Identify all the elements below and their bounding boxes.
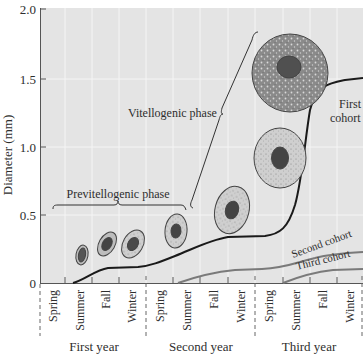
- previtellogenic-label: Previtellogenic phase: [67, 187, 170, 201]
- season-y2-winter: Winter: [234, 290, 248, 323]
- year-label-third: Third year: [282, 339, 337, 354]
- season-y3-spring: Spring: [262, 290, 276, 322]
- year-dividers: [40, 276, 362, 336]
- first-cohort-label-2: cohort: [330, 111, 361, 125]
- season-y1-spring: Spring: [46, 290, 60, 322]
- season-y1-winter: Winter: [125, 290, 139, 323]
- ytick-1.5: 1.5: [20, 72, 36, 87]
- year-label-first: First year: [69, 339, 119, 354]
- season-y2-fall: Fall: [207, 289, 221, 308]
- oocyte-7: [252, 34, 328, 112]
- y-axis-label: Diameter (mm): [0, 115, 15, 196]
- ytick-1.0: 1.0: [20, 140, 36, 155]
- ytick-2.0: 2.0: [20, 2, 36, 17]
- season-y1-summer: Summer: [73, 290, 87, 331]
- season-y2-spring: Spring: [153, 290, 167, 322]
- season-y2-summer: Summer: [180, 290, 194, 331]
- ytick-0: 0: [30, 276, 37, 291]
- season-y3-summer: Summer: [289, 290, 303, 331]
- season-y1-fall: Fall: [99, 289, 113, 308]
- year-label-second: Second year: [169, 339, 234, 354]
- season-y3-fall: Fall: [316, 289, 330, 308]
- ytick-0.5: 0.5: [20, 208, 36, 223]
- oocyte-6: [254, 128, 306, 188]
- oocyte-growth-chart: 2.0 1.5 1.0 0.5 0 Diameter (mm) Spring S…: [0, 0, 363, 354]
- season-y3-winter: Winter: [343, 290, 357, 323]
- vitellogenic-label: Vitellogenic phase: [128, 106, 217, 120]
- first-cohort-label-1: First: [339, 97, 362, 111]
